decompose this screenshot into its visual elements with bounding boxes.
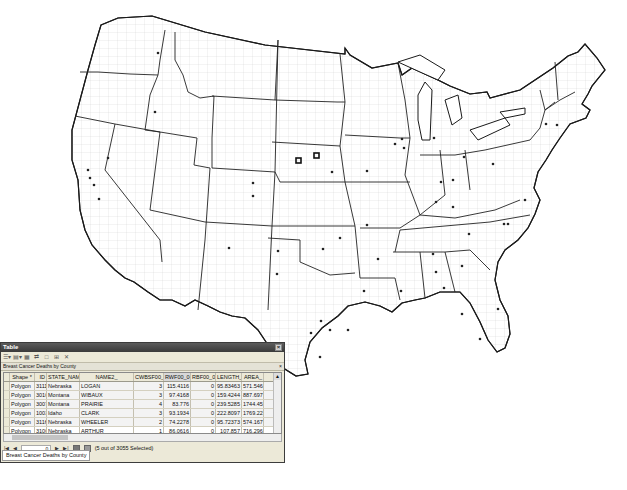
attribute-grid: Shape * ID STATE_NAME NAME2_ CWBSF00_04 … xyxy=(3,372,282,434)
cell-rbf: 0 xyxy=(191,427,216,434)
column-header-rwf[interactable]: RWF00_04 xyxy=(164,373,191,381)
conus-landmass xyxy=(60,10,620,390)
cell-length: 159.4244 xyxy=(216,391,242,399)
cell-length: 95.72373 xyxy=(216,418,242,426)
cell-state: Nebraska xyxy=(47,382,80,390)
cell-shape: Polygon xyxy=(10,409,35,417)
cell-id: 3100 xyxy=(35,427,47,434)
cell-shape: Polygon xyxy=(10,382,35,390)
column-headers: Shape * ID STATE_NAME NAME2_ CWBSF00_04 … xyxy=(4,373,281,382)
cell-state: Montana xyxy=(47,400,80,408)
cell-shape: Polygon xyxy=(10,400,35,408)
attribute-table-window: Table × ☰▾ ▤▾ ▦ ⇄ □ ⊞ ✕ Breast Cancer De… xyxy=(0,342,285,463)
cell-name: LOGAN xyxy=(80,382,134,390)
cell-state: Idaho xyxy=(47,409,80,417)
column-header-shape[interactable]: Shape * xyxy=(10,373,35,381)
horizontal-scroll-thumb[interactable] xyxy=(12,435,68,440)
zoom-to-selected-icon[interactable]: ⊞ xyxy=(53,354,60,361)
cell-rwf: 86.0616 xyxy=(164,427,191,434)
cell-rwf: 93.1934 xyxy=(164,409,191,417)
cell-cwbsf: 4 xyxy=(134,400,164,408)
close-icon[interactable]: × xyxy=(275,344,282,351)
delete-selected-icon[interactable]: ✕ xyxy=(63,354,70,361)
cell-area: 1744.45 xyxy=(242,400,264,408)
cell-rwf: 83.776 xyxy=(164,400,191,408)
cell-cwbsf: 3 xyxy=(134,391,164,399)
cell-name: ARTHUR xyxy=(80,427,134,434)
column-header-state-name[interactable]: STATE_NAME xyxy=(47,373,80,381)
cell-rbf: 0 xyxy=(191,391,216,399)
selection-status: (5 out of 3055 Selected) xyxy=(95,445,154,451)
related-tables-icon[interactable]: ▤▾ xyxy=(13,354,20,361)
table-row[interactable]: Polygon 3100 Nebraska ARTHUR 1 86.0616 0… xyxy=(4,427,281,434)
cell-rbf: 0 xyxy=(191,409,216,417)
scroll-up-icon[interactable]: ▲ xyxy=(274,373,281,380)
cell-rbf: 0 xyxy=(191,400,216,408)
cell-name: WIBAUX xyxy=(80,391,134,399)
table-row[interactable]: Polygon 3111 Nebraska LOGAN 3 115.4116 0… xyxy=(4,382,281,391)
close-layer-icon[interactable]: × xyxy=(279,363,282,370)
layer-name-bar: Breast Cancer Deaths by County × xyxy=(1,363,284,371)
cell-area: 887.697 xyxy=(242,391,264,399)
table-window-title: Table xyxy=(3,344,18,350)
horizontal-scrollbar[interactable] xyxy=(3,434,282,442)
cell-rwf: 115.4116 xyxy=(164,382,191,390)
cell-state: Montana xyxy=(47,391,80,399)
cell-shape: Polygon xyxy=(10,427,35,434)
table-row[interactable]: Polygon 3007 Montana PRAIRIE 4 83.776 0 … xyxy=(4,400,281,409)
cell-state: Nebraska xyxy=(47,418,80,426)
clear-selection-icon[interactable]: □ xyxy=(43,354,50,361)
cell-state: Nebraska xyxy=(47,427,80,434)
cell-id: 3116 xyxy=(35,418,47,426)
cell-length: 95.83463 xyxy=(216,382,242,390)
cell-area: 571.546 xyxy=(242,382,264,390)
select-by-attributes-icon[interactable]: ▦ xyxy=(23,354,30,361)
cell-length: 107.857 xyxy=(216,427,242,434)
cell-name: WHEELER xyxy=(80,418,134,426)
table-options-icon[interactable]: ☰▾ xyxy=(3,354,10,361)
cell-id: 3007 xyxy=(35,400,47,408)
cell-rwf: 74.2278 xyxy=(164,418,191,426)
cell-id: 1003 xyxy=(35,409,47,417)
cell-rwf: 97.4168 xyxy=(164,391,191,399)
column-header-length[interactable]: LENGTH_ xyxy=(216,373,242,381)
table-row[interactable]: Polygon 3116 Nebraska WHEELER 2 74.2278 … xyxy=(4,418,281,427)
table-toolbar: ☰▾ ▤▾ ▦ ⇄ □ ⊞ ✕ xyxy=(1,352,284,363)
cell-cwbsf: 3 xyxy=(134,382,164,390)
cell-length: 222.8097 xyxy=(216,409,242,417)
column-header-area[interactable]: AREA_ xyxy=(242,373,264,381)
table-window-titlebar[interactable]: Table × xyxy=(1,343,284,352)
cell-cwbsf: 2 xyxy=(134,418,164,426)
cell-id: 3111 xyxy=(35,382,47,390)
cell-rbf: 0 xyxy=(191,418,216,426)
cell-name: CLARK xyxy=(80,409,134,417)
cell-area: 1769.22 xyxy=(242,409,264,417)
vertical-scrollbar[interactable]: ▲ xyxy=(273,373,281,433)
cell-cwbsf: 1 xyxy=(134,427,164,434)
cell-id: 3010 xyxy=(35,391,47,399)
cell-length: 239.5285 xyxy=(216,400,242,408)
column-header-cwbsf[interactable]: CWBSF00_04 xyxy=(134,373,164,381)
column-header-name[interactable]: NAME2_ xyxy=(80,373,134,381)
cell-rbf: 0 xyxy=(191,382,216,390)
column-header-id[interactable]: ID xyxy=(35,373,47,381)
cell-area: 574.167 xyxy=(242,418,264,426)
cell-shape: Polygon xyxy=(10,418,35,426)
column-header-rbf[interactable]: RBF00_04 xyxy=(191,373,216,381)
table-row[interactable]: Polygon 1003 Idaho CLARK 3 93.1934 0 222… xyxy=(4,409,281,418)
cell-shape: Polygon xyxy=(10,391,35,399)
cell-cwbsf: 3 xyxy=(134,409,164,417)
switch-selection-icon[interactable]: ⇄ xyxy=(33,354,40,361)
cell-area: 716.296 xyxy=(242,427,264,434)
layer-name: Breast Cancer Deaths by County xyxy=(3,363,76,369)
tab-breast-cancer-deaths[interactable]: Breast Cancer Deaths by County xyxy=(2,450,90,461)
cell-name: PRAIRIE xyxy=(80,400,134,408)
table-row[interactable]: Polygon 3010 Montana WIBAUX 3 97.4168 0 … xyxy=(4,391,281,400)
